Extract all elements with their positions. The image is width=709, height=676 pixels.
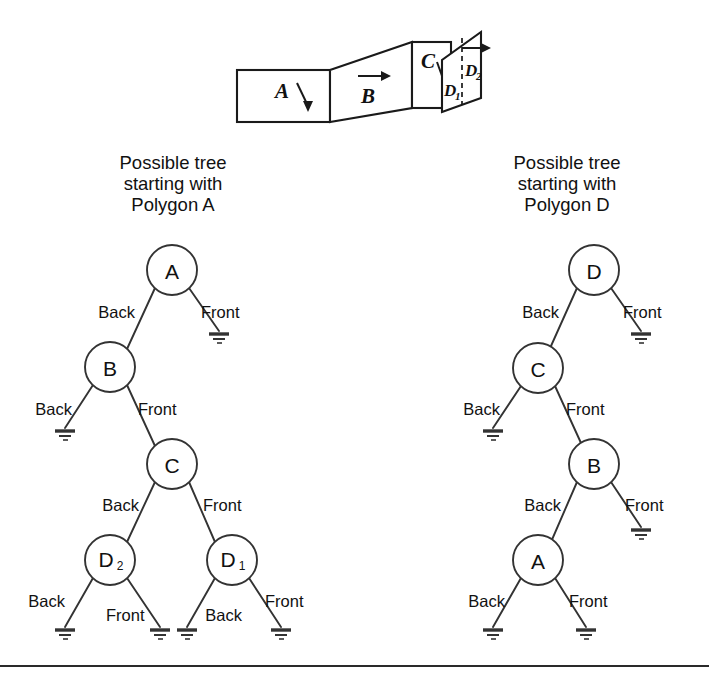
tree-left-label-d1-front: Front — [265, 592, 304, 610]
tree-left-label-a-front: Front — [201, 303, 240, 321]
tree-left-nil-d2-back — [55, 630, 75, 639]
polygon-scene: A B C D 1 D 2 — [237, 32, 491, 122]
bsp-tree-figure: A B C D 1 D 2 — [0, 0, 709, 676]
tree-left-node-a[interactable]: A — [147, 245, 197, 295]
tree-right-label-b-back: Back — [524, 496, 561, 514]
tree-left-label-b-back: Back — [35, 400, 72, 418]
tree-right-node-d-label: D — [586, 260, 601, 283]
tree-left-node-d1-label: D — [220, 548, 235, 571]
tree-right-node-a-label: A — [531, 550, 545, 573]
tree-left-nil-a-front — [209, 334, 229, 343]
scene-panel-b-label: B — [360, 84, 375, 108]
figure-canvas: A B C D 1 D 2 — [0, 0, 709, 676]
tree-right-nil-b-front — [631, 530, 651, 539]
tree-left-edge-d2-back — [65, 578, 93, 627]
tree-right-node-c[interactable]: C — [513, 343, 563, 393]
scene-panel-b — [330, 42, 412, 122]
tree-right-node-b[interactable]: B — [569, 439, 619, 489]
tree-left-node-b-label: B — [103, 357, 117, 380]
tree-left: Back Front Back Front Back Front Back Fr… — [28, 245, 304, 639]
caption-left-tree: Possible tree starting with Polygon A — [58, 152, 288, 215]
tree-right-node-b-label: B — [587, 454, 601, 477]
tree-right-nil-c-back — [483, 431, 503, 440]
tree-left-node-d2-label: D — [98, 548, 113, 571]
tree-left-label-a-back: Back — [98, 303, 135, 321]
scene-panel-d1-sub: 1 — [455, 90, 461, 102]
scene-panel-d2-sub: 2 — [475, 70, 482, 82]
tree-right-label-b-front: Front — [625, 496, 664, 514]
tree-left-node-d2[interactable]: D 2 — [85, 535, 135, 585]
tree-left-label-b-front: Front — [138, 400, 177, 418]
tree-left-label-d1-back: Back — [205, 606, 242, 624]
scene-panel-d-arrow-head — [481, 43, 491, 53]
tree-right-label-c-front: Front — [566, 400, 605, 418]
tree-left-node-a-label: A — [165, 260, 179, 283]
caption-right-tree: Possible tree starting with Polygon D — [452, 152, 682, 215]
tree-left-label-d2-back: Back — [28, 592, 65, 610]
tree-right-nil-a-back — [483, 630, 503, 639]
tree-left-nil-b-back — [55, 431, 75, 440]
tree-left-label-c-back: Back — [102, 496, 139, 514]
tree-left-node-c[interactable]: C — [147, 439, 197, 489]
bottom-divider-rule — [0, 665, 709, 667]
tree-left-node-d1-subscript: 1 — [239, 559, 246, 573]
tree-left-nil-d1-back — [177, 630, 197, 639]
tree-left-node-d2-subscript: 2 — [117, 559, 124, 573]
tree-left-label-c-front: Front — [203, 496, 242, 514]
tree-left-node-c-label: C — [164, 454, 179, 477]
tree-right-label-a-back: Back — [468, 592, 505, 610]
tree-left-node-d1[interactable]: D 1 — [207, 535, 257, 585]
tree-left-nil-d2-front — [150, 630, 170, 639]
tree-right-node-c-label: C — [530, 358, 545, 381]
tree-left-node-b[interactable]: B — [85, 342, 135, 392]
tree-right-node-a[interactable]: A — [513, 535, 563, 585]
scene-panel-a-label: A — [273, 79, 289, 103]
tree-right-node-d[interactable]: D — [569, 245, 619, 295]
tree-right-label-c-back: Back — [463, 400, 500, 418]
tree-left-label-d2-front: Front — [106, 606, 145, 624]
tree-left-nil-d1-front — [271, 630, 291, 639]
tree-right-nil-d-front — [631, 334, 651, 343]
tree-right-label-a-front: Front — [569, 592, 608, 610]
tree-right-label-d-back: Back — [522, 303, 559, 321]
tree-right-nil-a-front — [576, 630, 596, 639]
scene-panel-c-label: C — [421, 49, 436, 73]
tree-right: Back Front Back Front Back Front Back Fr… — [463, 245, 664, 639]
tree-right-label-d-front: Front — [623, 303, 662, 321]
